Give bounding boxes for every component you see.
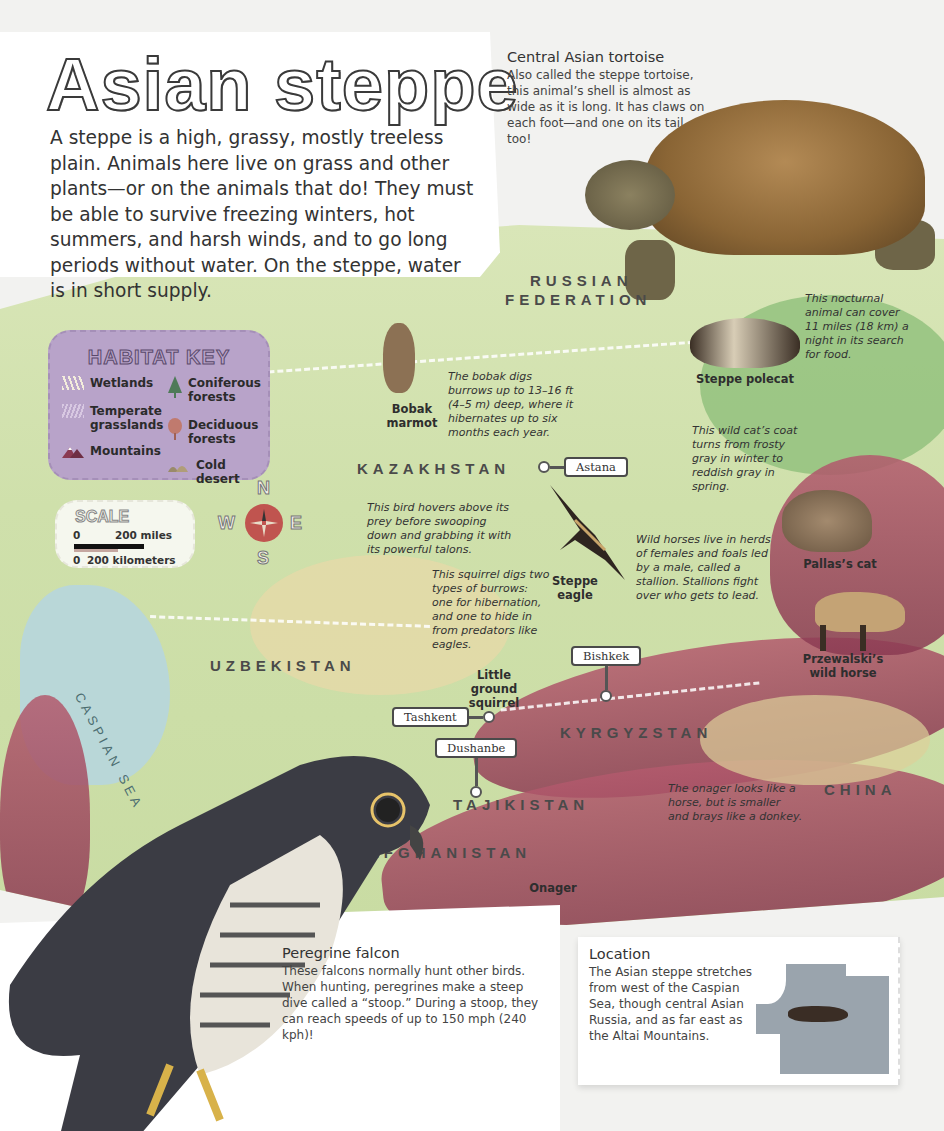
ground-squirrel-label: Littlegroundsquirrel xyxy=(462,668,526,710)
habitat-key-title: HABITAT KEY xyxy=(50,346,268,369)
key-item-mountains: Mountains xyxy=(62,444,161,458)
city-marker-dushanbe[interactable]: Dushanbe xyxy=(435,738,517,798)
compass-north: N xyxy=(257,478,270,499)
scale-km-zero: 0 xyxy=(73,554,80,566)
key-item-deciduous: Deciduousforests xyxy=(168,418,258,446)
deciduous-tree-icon xyxy=(168,418,182,440)
conifer-tree-icon xyxy=(168,376,182,398)
city-label-tashkent: Tashkent xyxy=(392,707,469,727)
desert-icon xyxy=(168,458,190,472)
key-item-coniferous: Coniferousforests xyxy=(168,376,261,404)
falcon-text: These falcons normally hunt other birds.… xyxy=(282,963,552,1043)
scale-box: SCALE 0 200 miles 0 200 kilometers xyxy=(55,500,195,568)
pallas-cat-caption: This wild cat’s coat turns from frosty g… xyxy=(692,424,812,494)
peregrine-falcon-image xyxy=(0,735,440,1131)
steppe-polecat-image xyxy=(690,318,800,368)
key-item-grasslands: Temperategrasslands xyxy=(62,404,163,432)
compass-rose: N E S W xyxy=(212,478,312,578)
compass-south: S xyxy=(257,548,269,569)
pallas-cat-label: Pallas’s cat xyxy=(790,557,890,571)
scale-km-label: 200 kilometers xyxy=(87,554,176,566)
location-mini-map xyxy=(756,964,889,1074)
page-title: Asian steppe xyxy=(46,42,519,127)
przewalski-horse-label: Przewalski’swild horse xyxy=(793,652,893,680)
country-label-china: CHINA xyxy=(824,781,897,798)
city-label-astana: Astana xyxy=(564,457,628,477)
location-text: The Asian steppe stretches from west of … xyxy=(589,964,759,1044)
key-item-wetlands: Wetlands xyxy=(62,376,153,390)
wetlands-icon xyxy=(62,376,84,390)
steppe-polecat-label: Steppe polecat xyxy=(695,372,795,386)
country-label-kyrgyzstan: KYRGYZSTAN xyxy=(560,724,712,741)
scale-bar-km xyxy=(74,549,118,552)
city-dot xyxy=(600,690,612,702)
onager-caption: The onager looks like a horse, but is sm… xyxy=(668,782,803,824)
city-marker-tashkent[interactable]: Tashkent xyxy=(392,707,495,727)
habitat-key: HABITAT KEY Wetlands Temperategrasslands… xyxy=(48,330,270,480)
country-label-uzbekistan: UZBEKISTAN xyxy=(210,657,356,674)
city-marker-bishkek[interactable]: Bishkek xyxy=(571,646,641,702)
bobak-marmot-image xyxy=(383,323,415,393)
pallas-cat-image xyxy=(782,490,872,552)
city-marker-astana[interactable]: Astana xyxy=(538,457,628,477)
steppe-eagle-caption: This bird hovers above its prey before s… xyxy=(367,501,517,557)
city-dot xyxy=(538,461,550,473)
intro-paragraph: A steppe is a high, grassy, mostly treel… xyxy=(50,125,480,304)
przewalski-horse-caption: Wild horses live in herds of females and… xyxy=(636,533,771,603)
steppe-polecat-caption: This nocturnal animal can cover 11 miles… xyxy=(805,292,915,362)
country-label-russia-2: FEDERATION xyxy=(505,291,651,308)
city-dot xyxy=(470,786,482,798)
falcon-heading: Peregrine falcon xyxy=(282,945,552,961)
falcon-info: Peregrine falcon These falcons normally … xyxy=(282,945,552,1043)
horse-leg xyxy=(860,625,866,651)
tortoise-shell xyxy=(645,100,925,255)
country-label-kazakhstan: KAZAKHSTAN xyxy=(357,460,510,477)
tortoise-image xyxy=(585,100,935,300)
onager-label: Onager xyxy=(525,881,581,895)
mountain-icon xyxy=(62,444,84,458)
grassland-icon xyxy=(62,404,84,418)
city-label-bishkek: Bishkek xyxy=(571,646,641,666)
steppe-region-highlight xyxy=(788,1006,848,1022)
compass-west: W xyxy=(218,513,235,534)
tortoise-heading: Central Asian tortoise xyxy=(507,49,707,65)
scale-miles-label: 200 miles xyxy=(115,529,172,541)
horse-leg xyxy=(820,625,826,651)
scale-miles-zero: 0 xyxy=(73,529,80,541)
compass-needle-icon xyxy=(245,504,283,542)
compass-east: E xyxy=(290,513,302,534)
city-label-dushanbe: Dushanbe xyxy=(435,738,517,758)
scale-title: SCALE xyxy=(75,508,129,526)
tortoise-head xyxy=(585,160,675,230)
country-label-tajikistan: TAJIKISTAN xyxy=(453,796,589,813)
location-heading: Location xyxy=(589,946,759,962)
ground-squirrel-caption: This squirrel digs two types of burrows:… xyxy=(432,568,552,652)
bobak-marmot-label: Bobakmarmot xyxy=(384,402,440,430)
city-dot xyxy=(483,711,495,723)
country-label-russia-1: RUSSIAN xyxy=(530,272,633,289)
bobak-marmot-caption: The bobak digs burrows up to 13–16 ft (4… xyxy=(448,370,578,440)
location-info: Location The Asian steppe stretches from… xyxy=(589,946,759,1044)
steppe-eagle-label: Steppeeagle xyxy=(548,574,602,602)
china-desert-region xyxy=(700,695,930,785)
